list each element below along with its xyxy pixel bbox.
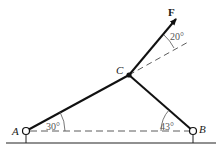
label-a: A (11, 125, 19, 137)
joint-c (126, 72, 131, 77)
pin-a (23, 128, 30, 135)
force-arrow-f (129, 19, 176, 75)
member-ac (26, 75, 129, 131)
pin-b (190, 128, 197, 135)
label-b: B (199, 123, 206, 135)
angle-label-a: 30° (46, 121, 60, 132)
dashed-extension-line (129, 41, 190, 75)
truss-diagram: A B C F 30° 43° 20° (0, 0, 221, 153)
label-f: F (168, 6, 175, 18)
label-c: C (116, 64, 124, 76)
angle-label-b: 43° (160, 121, 174, 132)
angle-label-f: 20° (170, 31, 184, 42)
angle-arc-a (60, 112, 65, 131)
